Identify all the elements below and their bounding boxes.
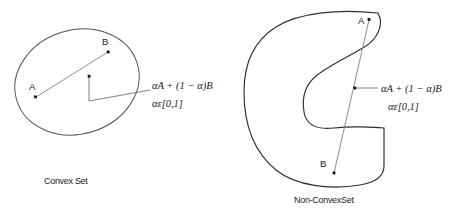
nonconvex-set-boundary — [244, 11, 384, 187]
nonconvex-point-b-label: B — [320, 158, 326, 169]
nonconvex-midpoint-dot — [353, 87, 356, 90]
nonconvex-formula-range: αε[0,1] — [388, 101, 419, 112]
nonconvex-point-a-dot — [368, 18, 371, 21]
convex-panel: A B αA + (1 − α)B αε[0,1] Convex Set — [2, 14, 214, 186]
nonconvex-formula-main: αA + (1 − α)B — [381, 83, 442, 95]
nonconvex-point-b-dot — [333, 172, 336, 175]
nonconvex-chord-ab — [334, 20, 369, 173]
diagram-canvas: A B αA + (1 − α)B αε[0,1] Convex Set A — [0, 0, 453, 217]
convex-leader-line — [89, 77, 150, 101]
convex-nonconvex-diagram: A B αA + (1 − α)B αε[0,1] Convex Set A — [0, 0, 453, 217]
convex-point-a-label: A — [29, 81, 36, 92]
convex-set-boundary — [2, 14, 153, 150]
convex-caption: Convex Set — [44, 176, 88, 186]
convex-point-a-dot — [34, 96, 37, 99]
convex-point-b-label: B — [102, 36, 108, 47]
nonconvex-caption: Non-ConvexSet — [294, 195, 354, 205]
nonconvex-point-a-label: A — [358, 15, 365, 26]
convex-formula-main: αA + (1 − α)B — [152, 80, 213, 92]
convex-formula-range: αε[0,1] — [152, 98, 183, 109]
nonconvex-panel: A B αA + (1 − α)B αε[0,1] Non-ConvexSet — [244, 11, 442, 205]
convex-point-b-dot — [107, 51, 110, 54]
convex-chord-ab — [36, 52, 108, 97]
convex-midpoint-dot — [88, 75, 91, 78]
